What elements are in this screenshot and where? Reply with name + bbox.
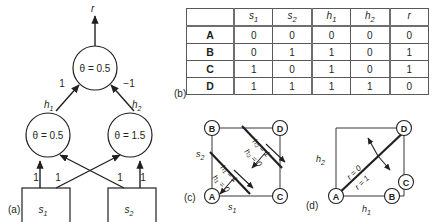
- row-label-d: D: [187, 78, 235, 95]
- table-row: D 1 1 1 1 0: [187, 78, 429, 95]
- panel-label-a: (a): [8, 204, 20, 215]
- cube-c-node-b-label: B: [209, 124, 216, 134]
- weight-h1-output: 1: [59, 78, 65, 89]
- cell-b-s2: 1: [273, 44, 312, 61]
- cell-d-h2: 1: [351, 78, 390, 95]
- edge-s1-to-h2: [56, 155, 120, 188]
- row-label-b: B: [187, 44, 235, 61]
- col-header-s1-sub: 1: [254, 15, 258, 24]
- cell-a-h1: 0: [312, 26, 351, 44]
- cube-c-node-a-label: A: [209, 192, 216, 202]
- table-header-row: s1 s2 h1 h2 r: [187, 9, 429, 27]
- col-header-r-name: r: [408, 10, 411, 21]
- figure-root: r θ = 0.5 1 −1 h1 h2 θ = 0.5 θ = 1.5 s1 …: [0, 0, 434, 222]
- table-row: C 1 0 1 0 1: [187, 61, 429, 78]
- cell-c-h1: 1: [312, 61, 351, 78]
- weight-s1-h2: 1: [55, 172, 61, 183]
- row-label-a: A: [187, 26, 235, 44]
- table-col-header-r: r: [390, 9, 429, 27]
- cube-c-node-d-label: D: [277, 124, 284, 134]
- cell-c-r: 1: [390, 61, 429, 78]
- cell-a-r: 0: [390, 26, 429, 44]
- weight-h2-output: −1: [123, 78, 135, 89]
- weight-s1-h1: 1: [33, 172, 39, 183]
- cell-a-s2: 0: [273, 26, 312, 44]
- hidden-unit-2-name: h2: [132, 99, 142, 112]
- cube-d-axis-label-h1: h1: [362, 204, 371, 216]
- panel-label-c: (c): [184, 192, 196, 203]
- cell-d-s1: 1: [234, 78, 273, 95]
- hidden-unit-1-name: h1: [44, 99, 54, 112]
- panel-label-d: (d): [306, 200, 318, 211]
- table-col-header-h2: h2: [351, 9, 390, 27]
- panel-network: r θ = 0.5 1 −1 h1 h2 θ = 0.5 θ = 1.5 s1 …: [0, 0, 180, 222]
- cube-d-arrow-r-one: [378, 156, 390, 170]
- panel-hidden-space: r = 0 r = 1 D C B A h2 h1 (d): [306, 112, 434, 222]
- weight-s2-h2: 1: [140, 172, 146, 183]
- table-corner-cell: [187, 9, 235, 27]
- row-label-c: C: [187, 61, 235, 78]
- cube-d-arrow-r-zero: [368, 138, 378, 156]
- cell-b-h2: 0: [351, 44, 390, 61]
- cell-d-s2: 1: [273, 78, 312, 95]
- panel-input-space: h₂ = 1 h₂ = 0 h₁ = 1 h₁ = 0 B D A C s2 s…: [186, 112, 306, 222]
- input-box-s2: [108, 188, 156, 222]
- network-diagram: r θ = 0.5 1 −1 h1 h2 θ = 0.5 θ = 1.5 s1 …: [0, 0, 180, 222]
- cell-b-r: 1: [390, 44, 429, 61]
- table-row: A 0 0 0 0 0: [187, 26, 429, 44]
- table-col-header-s2: s2: [273, 9, 312, 27]
- cell-d-r: 0: [390, 78, 429, 95]
- cube-d-node-c-label: C: [403, 178, 410, 188]
- cube-c-axis-label-s1: s1: [228, 202, 237, 214]
- cell-a-s1: 0: [234, 26, 273, 44]
- cube-d-decision-line-r: [336, 130, 406, 196]
- panel-truth-table: s1 s2 h1 h2 r A 0 0 0 0 0 B 0 1 1 0 1: [186, 8, 429, 100]
- cell-b-h1: 1: [312, 44, 351, 61]
- panel-label-b: (b): [174, 88, 186, 99]
- cell-c-s1: 1: [234, 61, 273, 78]
- col-header-s2-sub: 2: [293, 15, 297, 24]
- cube-d-axis-label-h2: h2: [316, 154, 325, 166]
- input-box-s1: [22, 188, 70, 222]
- cube-d-node-a-label: A: [333, 192, 340, 202]
- cell-c-h2: 0: [351, 61, 390, 78]
- cube-d-node-d-label: D: [401, 124, 408, 134]
- cube-d-node-b-label: B: [389, 192, 396, 202]
- cell-b-s1: 0: [234, 44, 273, 61]
- output-label-r: r: [91, 3, 95, 14]
- cell-d-h1: 1: [312, 78, 351, 95]
- hidden-neuron-2-theta: θ = 1.5: [115, 130, 146, 141]
- edge-s2-to-h1: [60, 155, 124, 188]
- cell-c-s2: 0: [273, 61, 312, 78]
- truth-table: s1 s2 h1 h2 r A 0 0 0 0 0 B 0 1 1 0 1: [186, 8, 429, 95]
- table-col-header-s1: s1: [234, 9, 273, 27]
- input-space-diagram: h₂ = 1 h₂ = 0 h₁ = 1 h₁ = 0 B D A C s2 s…: [186, 112, 306, 222]
- cube-c-node-c-label: C: [277, 192, 284, 202]
- hidden-space-diagram: r = 0 r = 1 D C B A h2 h1: [306, 112, 434, 222]
- col-header-h1-sub: 1: [332, 15, 336, 24]
- weight-s2-h1: 1: [117, 172, 123, 183]
- table-row: B 0 1 1 0 1: [187, 44, 429, 61]
- cell-a-h2: 0: [351, 26, 390, 44]
- hidden-neuron-1-theta: θ = 0.5: [33, 130, 64, 141]
- cube-c-axis-label-s2: s2: [196, 149, 205, 161]
- output-neuron-theta: θ = 0.5: [80, 63, 111, 74]
- col-header-h2-sub: 2: [371, 15, 375, 24]
- table-col-header-h1: h1: [312, 9, 351, 27]
